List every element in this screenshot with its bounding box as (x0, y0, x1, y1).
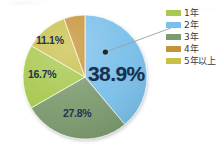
slice-label-5nen-ijo: 11.1% (36, 34, 64, 46)
callout-dot (103, 49, 108, 54)
legend-swatch-4nen (166, 46, 181, 52)
slice-label-2nen: 38.9% (88, 62, 145, 86)
slice-label-3nen: 27.8% (63, 107, 91, 119)
legend-label-4nen: 4年 (184, 44, 198, 55)
legend-label-5nen-ijo: 5年以上 (184, 56, 216, 67)
legend-swatch-2nen (166, 22, 181, 28)
slice-label-1nen: 16.7% (28, 68, 56, 80)
legend-item-4nen[interactable]: 4年 (166, 43, 220, 55)
pie-chart-figure: 38.9% 27.8% 16.7% 11.1% 1年 2年 3年 4年 5年以上 (0, 0, 220, 146)
legend-swatch-1nen (166, 10, 181, 16)
legend-label-3nen: 3年 (184, 32, 198, 43)
legend-swatch-3nen (166, 34, 181, 40)
legend-label-1nen: 1年 (184, 8, 198, 19)
chart-legend: 1年 2年 3年 4年 5年以上 (166, 7, 220, 67)
legend-label-2nen: 2年 (184, 20, 198, 31)
legend-item-3nen[interactable]: 3年 (166, 31, 220, 43)
legend-item-5nen-ijo[interactable]: 5年以上 (166, 55, 220, 67)
legend-item-2nen[interactable]: 2年 (166, 19, 220, 31)
legend-item-1nen[interactable]: 1年 (166, 7, 220, 19)
legend-swatch-5nen-ijo (166, 58, 181, 64)
